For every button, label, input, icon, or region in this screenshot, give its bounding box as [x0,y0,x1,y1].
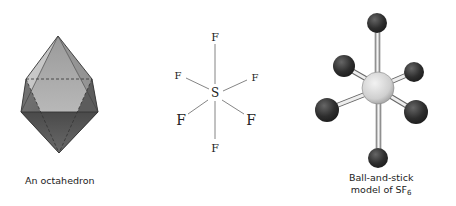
caption-line-1: Ball-and-stick [349,172,413,184]
fluorine-ball-top [367,13,387,33]
octahedron-caption: An octahedron [25,175,95,187]
fluorine-ball-bottom [368,148,388,168]
sulfur-ball [362,72,394,104]
fluorine-ball-lower-right [404,100,428,124]
caption-line-2-text: model of SF [351,184,407,195]
fluorine-ball-upper-left [333,55,355,77]
caption-line-2: model of SF6 [349,184,413,199]
fluorine-ball-upper-right [404,62,424,82]
fluorine-ball-lower-left [315,98,339,122]
caption-subscript: 6 [407,189,411,197]
ball-and-stick-caption: Ball-and-stick model of SF6 [349,172,413,199]
